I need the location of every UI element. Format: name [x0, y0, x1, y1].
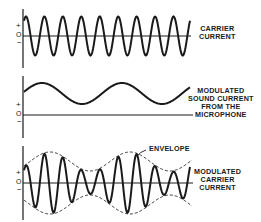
sound-wave — [24, 83, 190, 104]
sound-label: MODULATED SOUND CURRENT FROM THE MICROPH… — [188, 87, 254, 119]
sound-minus-sign: − — [17, 118, 22, 126]
panel-sound — [23, 76, 193, 138]
panel-carrier — [23, 9, 191, 68]
envelope-label: ENVELOPE — [149, 145, 190, 153]
modulated-label: MODULATED CARRIER CURRENT — [194, 168, 241, 192]
carrier-label: CARRIER CURRENT — [199, 25, 236, 41]
panel-modulated — [23, 146, 193, 220]
modulated-minus-sign: − — [17, 186, 22, 194]
carrier-label-line: CURRENT — [199, 33, 236, 41]
sound-plus-sign: + — [16, 101, 21, 109]
envelope-upper — [24, 152, 192, 171]
carrier-plus-sign: + — [16, 22, 21, 30]
carrier-minus-sign: − — [17, 39, 22, 47]
modulated-plus-sign: + — [16, 169, 21, 177]
modulated-label-line: CURRENT — [194, 184, 241, 192]
sound-label-line: MICROPHONE — [188, 111, 254, 119]
